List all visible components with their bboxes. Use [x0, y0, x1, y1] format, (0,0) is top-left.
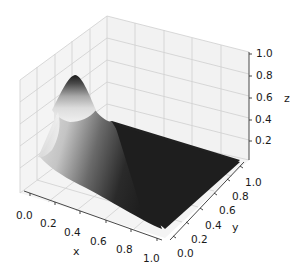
y-tick-label: 1.0 — [245, 177, 262, 188]
x-tick-label: 0.0 — [16, 210, 33, 221]
z-axis-label: z — [284, 93, 290, 104]
x-tick-label: 0.6 — [90, 236, 107, 247]
x-tick-label: 1.0 — [143, 253, 160, 264]
y-tick-label: 0.4 — [205, 220, 222, 231]
z-tick-label: 0.4 — [255, 114, 272, 125]
z-tick-label: 0.6 — [256, 92, 273, 103]
x-tick-label: 0.2 — [40, 218, 57, 229]
y-axis-label: y — [232, 222, 239, 233]
x-axis-label: x — [73, 246, 80, 257]
x-tick-label: 0.8 — [116, 244, 133, 255]
z-tick-label: 0.8 — [256, 70, 273, 81]
x-tick-label: 0.4 — [64, 227, 81, 238]
y-tick-label: 0.2 — [191, 234, 208, 245]
y-tick-label: 0.0 — [177, 248, 194, 259]
z-tick-label: 0.2 — [255, 135, 272, 146]
y-tick-label: 0.8 — [232, 191, 249, 202]
z-tick-label: 1.0 — [256, 48, 273, 59]
y-tick-label: 0.6 — [219, 205, 236, 216]
